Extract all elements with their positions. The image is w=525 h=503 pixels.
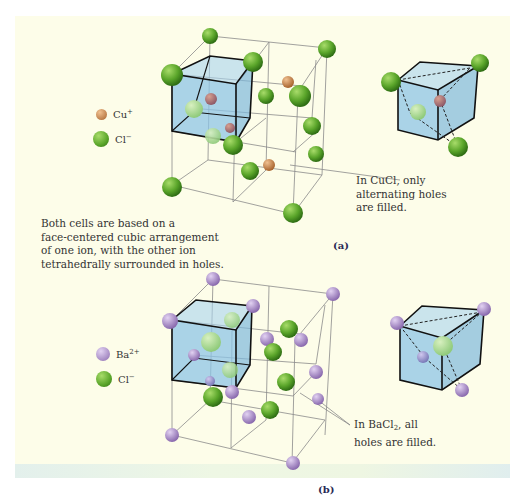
chloride-charge: − — [129, 373, 135, 381]
cucl-callout-line3: are filled. — [356, 201, 447, 215]
copper-ion-icon — [96, 109, 107, 120]
legend-chloride-label: Cl− — [115, 133, 132, 145]
copper-charge: + — [127, 108, 133, 116]
figure-a-label: (a) — [333, 240, 349, 251]
bacl2-tetrahedral-cell — [390, 302, 491, 397]
legend-barium-label: Ba2+ — [116, 348, 140, 360]
bacl2-callout-line2: holes are filled. — [354, 436, 436, 450]
barium-symbol: Ba — [116, 349, 129, 360]
cucl-callout: In CuCl, only alternating holes are fill… — [356, 174, 447, 215]
figure-b-label: (b) — [318, 484, 334, 495]
chloride-symbol: Cl — [118, 374, 129, 385]
description-line2: face-centered cubic arrangement — [41, 231, 224, 245]
copper-symbol: Cu — [113, 109, 127, 120]
cucl-callout-line2: alternating holes — [356, 188, 447, 202]
barium-ion-icon — [96, 347, 110, 361]
chloride-charge: − — [126, 133, 132, 141]
bacl2-callout-text-end: , all — [398, 418, 418, 430]
bacl2-callout-line1: In BaCl2, all — [354, 418, 436, 436]
bacl2-callout: In BaCl2, all holes are filled. — [354, 418, 436, 449]
description-text: Both cells are based on a face-centered … — [41, 217, 224, 271]
bacl2-callout-text: In BaCl — [354, 418, 394, 430]
description-line1: Both cells are based on a — [41, 217, 224, 231]
chloride-symbol: Cl — [115, 134, 126, 145]
barium-charge: 2+ — [129, 348, 139, 356]
description-line4: tetrahedrally surrounded in holes. — [41, 258, 224, 272]
legend-chloride-label: Cl− — [118, 373, 135, 385]
legend-chloride-a: Cl− — [93, 131, 132, 147]
chloride-ion-icon — [93, 131, 109, 147]
cucl-callout-line1: In CuCl, only — [356, 174, 447, 188]
cucl-tetrahedral-cell — [381, 54, 489, 157]
legend-copper: Cu+ — [96, 108, 133, 120]
legend-chloride-b: Cl− — [96, 371, 135, 387]
legend-barium: Ba2+ — [96, 347, 140, 361]
description-line3: of one ion, with the other ion — [41, 244, 224, 258]
legend-copper-label: Cu+ — [113, 108, 133, 120]
chloride-ion-icon — [96, 371, 112, 387]
